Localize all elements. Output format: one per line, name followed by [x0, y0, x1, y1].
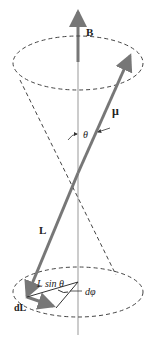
label-d-phi: dφ: [85, 286, 96, 297]
theta-arc: [68, 134, 77, 140]
label-l-sin-theta: L sin θ: [36, 278, 64, 289]
mu-vector: [78, 56, 130, 173]
d-phi-arc: [58, 290, 68, 293]
label-l: L: [39, 224, 46, 236]
dl-vector: [27, 297, 53, 306]
precession-diagram: B μ θ L L sin θ dφ dL: [0, 0, 152, 346]
label-theta: θ: [83, 129, 88, 140]
cone-line-left: [20, 80, 116, 275]
theta-arrow: [98, 128, 110, 132]
label-dl: dL: [14, 302, 27, 313]
label-b: B: [86, 26, 94, 38]
label-mu: μ: [112, 104, 119, 118]
